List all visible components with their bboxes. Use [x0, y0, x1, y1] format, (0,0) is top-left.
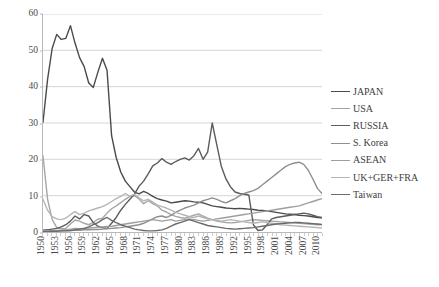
legend-item-s-korea[interactable]: S. Korea: [331, 135, 437, 152]
x-axis-tick-label: 1977: [161, 236, 171, 255]
legend-label: S. Korea: [353, 138, 388, 148]
x-axis-minor-tick: [294, 233, 295, 236]
x-axis-tick-label: 1968: [120, 236, 130, 255]
x-axis-minor-tick: [60, 233, 61, 236]
x-axis-tick-label: 1965: [106, 236, 116, 255]
legend-label: Taiwan: [353, 190, 382, 200]
legend-label: RUSSIA: [353, 121, 389, 131]
x-axis-minor-tick: [281, 233, 282, 236]
x-axis-tick-label: 1953: [51, 236, 61, 255]
legend-color-swatch: [331, 108, 350, 109]
x-axis-minor-tick: [239, 233, 240, 236]
legend-color-swatch: [331, 125, 350, 126]
x-axis-tick-label: 2001: [271, 236, 281, 255]
chart-figure: 0102030405060 19501953195619591962196519…: [0, 0, 439, 287]
x-axis-tick-label: 1998: [257, 236, 267, 255]
x-axis-tick-label: 1950: [37, 236, 47, 255]
x-axis-minor-tick: [226, 233, 227, 236]
y-axis-tick-mark: [40, 123, 43, 124]
legend-item-japan[interactable]: JAPAN: [331, 83, 437, 100]
x-axis-tick-label: 1974: [147, 236, 157, 255]
x-axis-tick-label: 1959: [78, 236, 88, 255]
x-axis-tick-label: 1983: [188, 236, 198, 255]
x-axis-minor-tick: [198, 233, 199, 236]
y-axis-tick-label: 50: [29, 46, 39, 56]
x-axis: 1950195319561959196219651968197119741977…: [42, 236, 322, 286]
x-axis-minor-tick: [102, 233, 103, 236]
x-axis-tick-label: 2010: [312, 236, 322, 255]
x-axis-minor-tick: [212, 233, 213, 236]
y-axis-tick-label: 40: [29, 82, 39, 92]
series-line-usa: [43, 156, 322, 229]
x-axis-tick-label: 1956: [65, 236, 75, 255]
chart-legend: JAPANUSARUSSIAS. KoreaASEANUK+GER+FRATai…: [331, 83, 437, 203]
x-axis-minor-tick: [322, 233, 323, 236]
x-axis-tick-label: 1995: [244, 236, 254, 255]
legend-item-russia[interactable]: RUSSIA: [331, 117, 437, 134]
x-axis-tick-label: 1980: [175, 236, 185, 255]
x-axis-tick-label: 1962: [92, 236, 102, 255]
y-axis-tick-mark: [40, 196, 43, 197]
x-axis-tick-label: 1989: [216, 236, 226, 255]
x-axis-minor-tick: [267, 233, 268, 236]
y-axis-tick-mark: [40, 87, 43, 88]
x-axis-tick-label: 1986: [202, 236, 212, 255]
legend-item-uk-ger-fra[interactable]: UK+GER+FRA: [331, 169, 437, 186]
legend-color-swatch: [331, 160, 350, 161]
y-axis-tick-label: 30: [29, 119, 39, 129]
y-axis-tick-label: 10: [29, 192, 39, 202]
y-axis-tick-label: 20: [29, 155, 39, 165]
legend-label: UK+GER+FRA: [353, 173, 418, 183]
series-line-s-korea: [43, 162, 322, 231]
legend-color-swatch: [331, 194, 350, 195]
legend-label: USA: [353, 104, 373, 114]
x-axis-tick-label: 2007: [299, 236, 309, 255]
x-axis-tick-label: 2004: [285, 236, 295, 255]
legend-item-taiwan[interactable]: Taiwan: [331, 186, 437, 203]
y-axis-tick-mark: [40, 14, 43, 15]
series-line-japan: [43, 26, 322, 218]
legend-label: ASEAN: [353, 155, 386, 165]
x-axis-minor-tick: [47, 233, 48, 236]
x-axis-minor-tick: [88, 233, 89, 236]
y-axis-tick-mark: [40, 50, 43, 51]
legend-color-swatch: [331, 143, 350, 144]
x-axis-minor-tick: [157, 233, 158, 236]
legend-label: JAPAN: [353, 87, 383, 97]
series-lines: [43, 14, 322, 232]
y-axis-tick-label: 60: [29, 9, 39, 19]
legend-color-swatch: [331, 177, 350, 178]
x-axis-tick-label: 1971: [133, 236, 143, 255]
x-axis-tick-label: 1992: [230, 236, 240, 255]
legend-color-swatch: [331, 91, 350, 92]
y-axis-tick-mark: [40, 160, 43, 161]
x-axis-minor-tick: [143, 233, 144, 236]
x-axis-minor-tick: [115, 233, 116, 236]
legend-item-usa[interactable]: USA: [331, 100, 437, 117]
legend-item-asean[interactable]: ASEAN: [331, 152, 437, 169]
x-axis-minor-tick: [171, 233, 172, 236]
plot-area: 0102030405060: [42, 14, 322, 233]
